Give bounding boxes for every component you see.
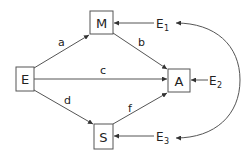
node-m: M bbox=[90, 11, 113, 34]
node-e-label: E bbox=[21, 72, 29, 87]
error-e2: E 2 bbox=[209, 74, 222, 90]
error-e1-sub: 1 bbox=[164, 24, 169, 33]
node-m-label: M bbox=[96, 16, 107, 31]
node-a-label: A bbox=[175, 74, 184, 89]
error-e3-base: E bbox=[156, 130, 164, 144]
node-s-label: S bbox=[99, 130, 107, 145]
error-e1-base: E bbox=[156, 17, 164, 31]
error-e3-sub: 3 bbox=[164, 137, 169, 146]
edge-label-a: a bbox=[58, 36, 65, 49]
edge-s-to-a bbox=[113, 93, 167, 124]
edge-label-c: c bbox=[100, 64, 106, 77]
error-e2-sub: 2 bbox=[217, 81, 222, 90]
error-e2-base: E bbox=[209, 74, 217, 88]
node-a: A bbox=[168, 69, 190, 92]
node-s: S bbox=[94, 124, 113, 149]
error-e3: E 3 bbox=[156, 130, 169, 146]
edge-label-b: b bbox=[138, 36, 145, 49]
edge-label-d: d bbox=[64, 94, 71, 107]
error-e1: E 1 bbox=[156, 17, 169, 33]
node-e: E bbox=[16, 67, 34, 91]
path-diagram: M E A S a b c d f E 1 E 2 E 3 bbox=[0, 0, 252, 157]
